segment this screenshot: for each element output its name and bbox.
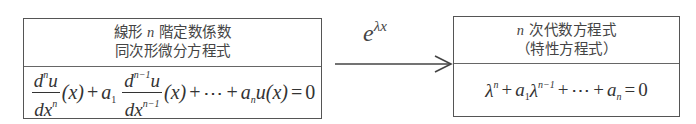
argument: (x) [164, 81, 186, 104]
title-line-1: n次代数方程式 [454, 21, 679, 40]
lambda-n-minus-1: λn−1 [530, 79, 555, 102]
characteristic-equation-box: n次代数方程式 （特性方程式） λn + a1 λn−1 + ⋯ + an = … [453, 16, 680, 117]
arrow-label: eλx [363, 18, 387, 47]
title-text: 階定数係数 [159, 24, 232, 40]
fraction-bar [122, 92, 162, 93]
n-minus-1-derivative-fraction: dn−1u dxn−1 [122, 65, 162, 120]
title-text: 線形 [114, 24, 143, 40]
coefficient-a1: a1 [101, 81, 116, 105]
plus-sign: + [226, 81, 237, 104]
equals-sign: = [625, 79, 636, 101]
plus-sign: + [189, 81, 200, 104]
title-line-2: 同次形微分方程式 [24, 42, 321, 61]
equals-sign: = [291, 81, 302, 104]
rhs-zero: 0 [638, 79, 648, 101]
function-u: u [256, 81, 266, 104]
right-arrow-icon [335, 54, 453, 76]
title-text: 次代数方程式 [529, 22, 616, 38]
plus-sign: + [501, 79, 512, 101]
argument: (x) [266, 81, 288, 104]
differential-equation-title: 線形n階定数係数 同次形微分方程式 [24, 19, 321, 67]
order-variable: n [517, 22, 525, 38]
coefficient-an: an [607, 79, 622, 102]
argument: (x) [62, 81, 84, 104]
plus-sign: + [87, 81, 98, 104]
title-line-2: （特性方程式） [454, 40, 679, 59]
coefficient-an: an [241, 81, 256, 105]
lambda-n: λn [485, 79, 498, 102]
coefficient-a1: a1 [515, 79, 530, 102]
fraction-bar [32, 92, 60, 93]
differential-equation-formula: dnu dxn (x) + a1 dn−1u dxn−1 (x) + ⋯ + a… [24, 67, 321, 118]
plus-sign: + [593, 79, 604, 101]
characteristic-equation-title: n次代数方程式 （特性方程式） [454, 17, 679, 64]
rhs-zero: 0 [305, 81, 315, 104]
ellipsis: ⋯ [203, 81, 223, 105]
plus-sign: + [558, 79, 569, 101]
nth-derivative-fraction: dnu dxn [32, 65, 60, 120]
order-variable: n [147, 24, 155, 40]
characteristic-equation-formula: λn + a1 λn−1 + ⋯ + an = 0 [454, 64, 679, 116]
differential-equation-box: 線形n階定数係数 同次形微分方程式 dnu dxn (x) + a1 dn−1u… [23, 18, 322, 119]
ellipsis: ⋯ [571, 79, 590, 102]
title-line-1: 線形n階定数係数 [24, 23, 321, 42]
